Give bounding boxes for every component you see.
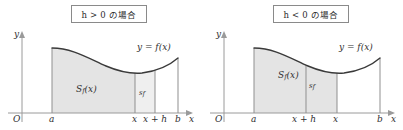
- region-label-strip: sf: [139, 89, 145, 98]
- region-label-main-arg: (x): [85, 84, 97, 94]
- y-axis-label: y: [216, 29, 221, 39]
- x-axis-label: x: [189, 114, 194, 124]
- origin-label: O: [215, 114, 222, 124]
- curve-label: y = f(x): [339, 42, 373, 52]
- region-label-strip: sf: [309, 82, 315, 91]
- region-label-main: Sf(x): [278, 70, 299, 81]
- tick-label-x-plus-h: x + h: [292, 114, 316, 124]
- tick-label-x-plus-h: x + h: [143, 114, 167, 124]
- y-axis-label: y: [14, 29, 19, 39]
- tick-label-a: a: [251, 114, 256, 124]
- tick-label-a: a: [49, 114, 54, 124]
- tick-label-b: b: [175, 114, 181, 124]
- y-axis-arrow: [19, 31, 25, 38]
- curve-label: y = f(x): [137, 42, 171, 52]
- plot-svg-h-positive: [0, 0, 201, 130]
- region-label-strip-sub: f: [143, 90, 145, 98]
- region-label-strip-sub: f: [313, 83, 315, 91]
- plot-svg-h-negative: [202, 0, 403, 130]
- region-label-main-arg: (x): [287, 70, 299, 80]
- figure-area-function: h > 0 の場合 O y x a x x + h: [0, 0, 403, 130]
- y-axis-arrow: [221, 31, 227, 38]
- x-axis-label: x: [391, 114, 396, 124]
- shaded-region-main: [52, 48, 135, 113]
- shaded-region-strip: [135, 70, 155, 113]
- panel-h-positive: h > 0 の場合 O y x a x x + h: [0, 0, 201, 130]
- tick-label-x: x: [333, 114, 338, 124]
- tick-label-x: x: [132, 114, 137, 124]
- origin-label: O: [13, 114, 20, 124]
- panel-h-negative: h < 0 の場合 O y x a x + h x b: [202, 0, 403, 130]
- region-label-main: Sf(x): [76, 84, 97, 95]
- tick-label-b: b: [377, 114, 383, 124]
